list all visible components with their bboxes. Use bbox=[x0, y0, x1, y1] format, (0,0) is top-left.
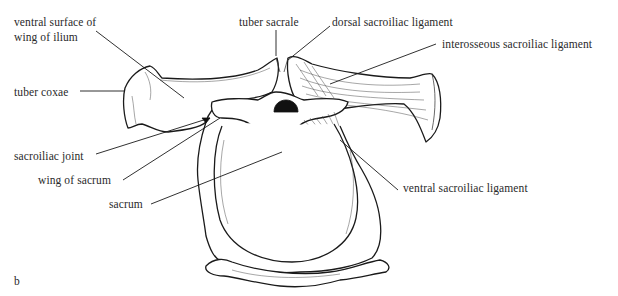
label-tuber-coxae: tuber coxae bbox=[14, 85, 68, 99]
label-ventral-surface-1: ventral surface of bbox=[14, 15, 96, 29]
label-ventral-surface-2: wing of ilium bbox=[14, 30, 78, 44]
pelvic-inlet bbox=[214, 124, 357, 262]
label-sacroiliac-joint: sacroiliac joint bbox=[14, 149, 84, 163]
label-dorsal-sacroiliac-ligament: dorsal sacroiliac ligament bbox=[332, 15, 453, 29]
leader-dorsal-ligament bbox=[288, 26, 330, 60]
label-ventral-sacroiliac-ligament: ventral sacroiliac ligament bbox=[403, 181, 528, 195]
label-wing-of-sacrum: wing of sacrum bbox=[38, 173, 111, 187]
label-tuber-sacrale: tuber sacrale bbox=[239, 15, 299, 29]
label-interosseous-sacroiliac-ligament: interosseous sacroiliac ligament bbox=[442, 37, 592, 51]
panel-letter: b bbox=[14, 274, 20, 288]
label-sacrum: sacrum bbox=[109, 197, 143, 211]
anatomy-figure: ventral surface of wing of ilium tuber c… bbox=[0, 0, 618, 296]
